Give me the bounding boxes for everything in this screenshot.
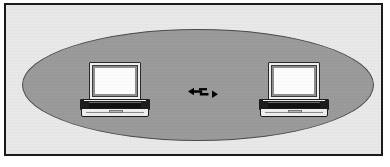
figure-root [0,0,390,167]
laptop-left-label [79,61,80,62]
figure-frame [4,3,383,156]
laptop-right-hinge [263,100,325,101]
laptop-right-touchpad [288,110,302,113]
laptop-left-bezel [92,65,138,97]
laptop-left-touchpad [109,110,123,113]
wireless-link-arrow [188,84,218,100]
laptop-left-lid [89,62,141,100]
laptop-left-palmrest [81,108,149,117]
laptop-right-palmrest [260,108,328,117]
laptop-right-label [258,61,259,62]
laptop-right [259,62,329,118]
laptop-right-bezel [271,65,317,97]
laptop-right-screen [274,68,314,94]
laptop-left-hinge [84,100,146,101]
laptop-left [80,62,150,118]
coverage-area-label [22,29,23,30]
laptop-left-screen [95,68,135,94]
laptop-right-lid [268,62,320,100]
